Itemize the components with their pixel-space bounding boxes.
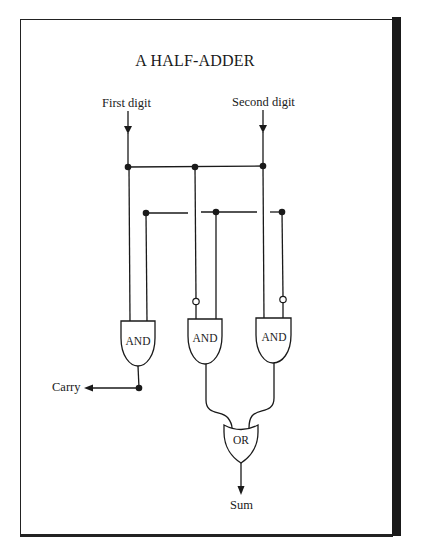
and1-input-a [129, 167, 130, 322]
and-gate-1-label: AND [120, 335, 156, 347]
second-digit-arrow [259, 110, 267, 167]
and2-input-a [195, 167, 196, 298]
sum-label: Sum [230, 498, 253, 513]
first-digit-label: First digit [102, 96, 151, 111]
or-gate-label: OR [223, 434, 259, 446]
and2-to-or-wire [206, 364, 232, 428]
first-digit-arrow [124, 111, 132, 167]
and1-input-b [146, 213, 147, 322]
and3-input-a [263, 167, 264, 320]
and3-to-or-wire [249, 363, 274, 428]
sum-arrow-icon [238, 486, 245, 495]
diagram-title: A HALF-ADDER [0, 52, 390, 70]
and-gate-3-label: AND [256, 331, 292, 343]
and-gate-2-label: AND [187, 332, 223, 344]
inverter-bubble-and3 [280, 296, 286, 302]
carry-label: Carry [52, 380, 80, 395]
carry-arrow-icon [84, 385, 93, 392]
half-adder-circuit [0, 0, 421, 556]
and3-input-b [282, 212, 283, 296]
inverter-bubble-and2 [193, 298, 199, 304]
second-digit-label: Second digit [232, 95, 295, 110]
carry-wire [138, 366, 139, 388]
